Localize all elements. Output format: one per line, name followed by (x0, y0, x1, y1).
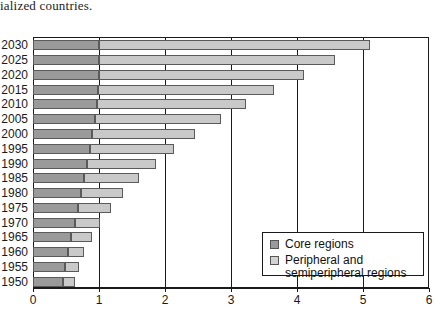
y-axis-labels: 2030202520202015201020052000199519901985… (0, 0, 31, 315)
bar-row-1950 (33, 277, 75, 287)
y-tick-label-2005: 2005 (1, 112, 28, 126)
bar-segment-peripheral-1980 (81, 188, 123, 198)
legend-item-peripheral: Peripheral and semiperipheral regions (270, 254, 417, 280)
bar-row-1980 (33, 188, 123, 198)
bar-segment-core-1990 (33, 159, 87, 169)
y-tick-label-1950: 1950 (1, 275, 28, 289)
bar-segment-peripheral-1975 (78, 203, 111, 213)
bar-row-1985 (33, 173, 139, 183)
y-tick-label-2025: 2025 (1, 53, 28, 67)
x-tick-4 (297, 288, 298, 292)
bar-segment-peripheral-2025 (99, 55, 335, 65)
bar-segment-peripheral-1970 (75, 218, 101, 228)
x-tick-1 (99, 288, 100, 292)
bar-segment-core-2015 (33, 85, 98, 95)
bar-row-1960 (33, 247, 84, 257)
bar-row-2010 (33, 99, 246, 109)
bar-row-2005 (33, 114, 221, 124)
y-tick-label-1980: 1980 (1, 186, 28, 200)
bar-segment-peripheral-1965 (71, 232, 91, 242)
bar-segment-peripheral-1995 (90, 144, 174, 154)
y-tick-label-1985: 1985 (1, 171, 28, 185)
y-tick-label-1960: 1960 (1, 245, 28, 259)
bar-row-2020 (33, 70, 304, 80)
bar-row-1970 (33, 218, 100, 228)
bar-row-1955 (33, 262, 79, 272)
bar-row-2015 (33, 85, 274, 95)
bar-segment-core-2030 (33, 40, 99, 50)
bar-segment-peripheral-2015 (98, 85, 274, 95)
y-tick-label-1955: 1955 (1, 260, 28, 274)
bar-segment-core-1980 (33, 188, 81, 198)
bar-segment-peripheral-1990 (87, 159, 156, 169)
x-tick-2 (165, 288, 166, 292)
y-tick-label-2020: 2020 (1, 68, 28, 82)
y-tick-label-2015: 2015 (1, 83, 28, 97)
bar-segment-peripheral-2000 (92, 129, 195, 139)
x-tick-label-3: 3 (228, 293, 235, 307)
bar-segment-core-1955 (33, 262, 65, 272)
x-tick-label-4: 4 (294, 293, 301, 307)
bar-segment-core-1985 (33, 173, 84, 183)
y-tick-label-2030: 2030 (1, 38, 28, 52)
x-tick-5 (363, 288, 364, 292)
legend-label-core: Core regions (285, 238, 354, 251)
bar-row-2030 (33, 40, 370, 50)
bar-row-1995 (33, 144, 174, 154)
y-tick-label-1965: 1965 (1, 230, 28, 244)
bar-segment-core-1960 (33, 247, 68, 257)
bar-segment-core-2025 (33, 55, 99, 65)
bar-row-2000 (33, 129, 195, 139)
legend-swatch-peripheral (270, 256, 279, 265)
bar-segment-core-1965 (33, 232, 71, 242)
chart-legend: Core regions Peripheral and semiperipher… (262, 232, 424, 276)
bar-row-1975 (33, 203, 111, 213)
bar-segment-core-1975 (33, 203, 78, 213)
bar-segment-core-2000 (33, 129, 92, 139)
bar-segment-peripheral-1960 (68, 247, 85, 257)
x-tick-label-1: 1 (96, 293, 103, 307)
y-tick-label-1995: 1995 (1, 142, 28, 156)
x-tick-3 (231, 288, 232, 292)
bar-segment-core-1950 (33, 277, 63, 287)
bar-segment-peripheral-1955 (65, 262, 79, 272)
y-tick-label-2010: 2010 (1, 97, 28, 111)
bar-row-1990 (33, 159, 156, 169)
y-tick-label-1970: 1970 (1, 216, 28, 230)
bar-segment-core-2005 (33, 114, 95, 124)
x-tick-6 (429, 288, 430, 292)
x-tick-0 (33, 288, 34, 292)
bar-row-1965 (33, 232, 92, 242)
bar-segment-peripheral-2005 (95, 114, 221, 124)
bar-row-2025 (33, 55, 335, 65)
legend-label-peripheral: Peripheral and semiperipheral regions (285, 254, 406, 280)
bar-segment-core-1970 (33, 218, 75, 228)
bar-segment-core-2010 (33, 99, 97, 109)
bar-segment-peripheral-2020 (99, 70, 304, 80)
y-tick-label-1990: 1990 (1, 157, 28, 171)
x-tick-label-5: 5 (360, 293, 367, 307)
legend-swatch-core (270, 240, 279, 249)
legend-item-core: Core regions (270, 238, 417, 251)
bar-segment-peripheral-2030 (99, 40, 370, 50)
y-tick-label-1975: 1975 (1, 201, 28, 215)
bar-segment-core-1995 (33, 144, 90, 154)
stacked-bar-chart: 0123456 20302025202020152010200520001995… (0, 0, 435, 315)
x-tick-label-2: 2 (162, 293, 169, 307)
x-tick-label-6: 6 (426, 293, 433, 307)
bar-segment-peripheral-1985 (84, 173, 138, 183)
y-tick-label-2000: 2000 (1, 127, 28, 141)
bar-segment-peripheral-2010 (97, 99, 246, 109)
bar-segment-peripheral-1950 (63, 277, 75, 287)
bar-segment-core-2020 (33, 70, 99, 80)
